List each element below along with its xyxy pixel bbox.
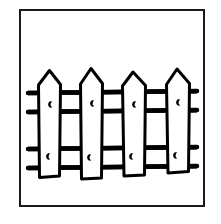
picket-1-body xyxy=(39,71,61,178)
picket-3 xyxy=(123,72,146,176)
picket-2 xyxy=(81,69,103,180)
picket-3-body xyxy=(123,72,146,176)
picket-1 xyxy=(39,71,61,178)
picket-4-body xyxy=(167,69,190,173)
picket-2-body xyxy=(81,69,103,180)
illustration-canvas: Picket Fence xyxy=(0,0,221,224)
picket-4 xyxy=(167,69,190,173)
picket-fence-illustration: Picket Fence xyxy=(0,0,221,224)
